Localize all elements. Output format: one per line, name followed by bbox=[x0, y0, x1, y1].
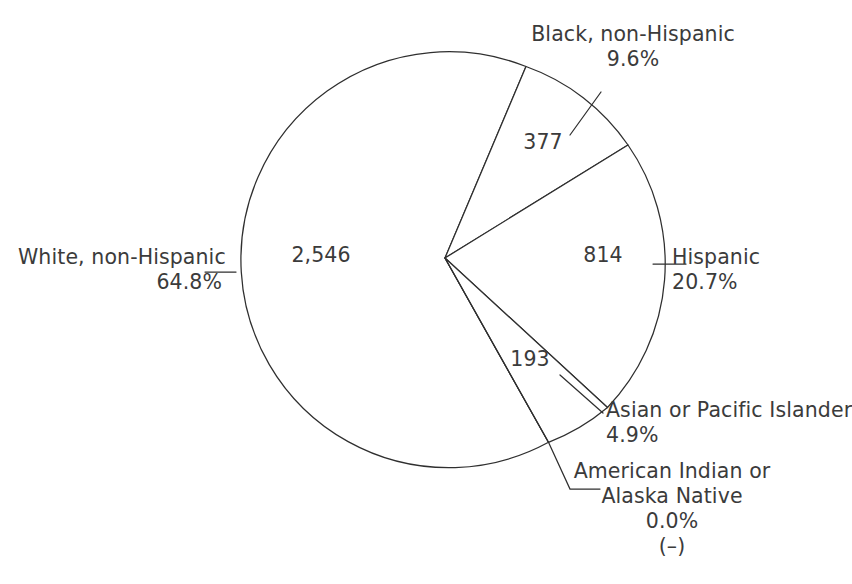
category-name-asian-or-pacific-islander: Asian or Pacific Islander bbox=[606, 398, 852, 422]
category-name-american-indian-line1: American Indian or bbox=[574, 459, 771, 483]
category-name-hispanic: Hispanic bbox=[672, 245, 760, 269]
slice-value-asian-or-pacific-islander: 193 bbox=[495, 347, 565, 372]
category-suppressed-note-american-indian: (–) bbox=[556, 534, 788, 559]
slice-value-white-non-hispanic: 2,546 bbox=[276, 243, 366, 268]
slice-value-black-non-hispanic: 377 bbox=[508, 130, 578, 155]
category-name-black-non-hispanic: Black, non-Hispanic bbox=[531, 22, 735, 46]
category-percent-white-non-hispanic: 64.8% bbox=[18, 270, 222, 295]
category-label-white-non-hispanic: White, non-Hispanic 64.8% bbox=[18, 245, 222, 295]
category-label-black-non-hispanic: Black, non-Hispanic 9.6% bbox=[518, 22, 748, 72]
category-label-asian-or-pacific-islander: Asian or Pacific Islander 4.9% bbox=[606, 398, 834, 448]
category-name-american-indian-line2: Alaska Native bbox=[556, 484, 788, 509]
category-percent-american-indian-or-alaska-native: 0.0% bbox=[556, 509, 788, 534]
slice-value-hispanic: 814 bbox=[568, 243, 638, 268]
category-label-american-indian-or-alaska-native: American Indian or Alaska Native 0.0% (–… bbox=[556, 459, 788, 559]
category-percent-hispanic: 20.7% bbox=[672, 270, 832, 295]
category-percent-black-non-hispanic: 9.6% bbox=[518, 47, 748, 72]
category-label-hispanic: Hispanic 20.7% bbox=[672, 245, 832, 295]
category-percent-asian-or-pacific-islander: 4.9% bbox=[606, 423, 834, 448]
category-name-white-non-hispanic: White, non-Hispanic bbox=[18, 245, 226, 269]
